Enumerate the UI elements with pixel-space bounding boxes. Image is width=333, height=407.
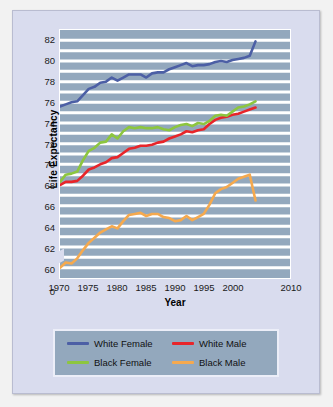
legend-swatch: [172, 342, 194, 345]
y-tick-label: 66: [44, 201, 55, 212]
y-tick-label: 62: [44, 242, 55, 253]
legend-item[interactable]: Black Male: [166, 357, 271, 368]
series-lines: [60, 30, 290, 278]
plot-wrapper: 0606264666870727476788082 19701975198019…: [59, 29, 291, 279]
legend-swatch: [172, 361, 194, 364]
x-tick-label: 1985: [135, 282, 156, 293]
y-tick-label: 76: [44, 96, 55, 107]
legend-label: White Male: [199, 338, 247, 349]
y-tick-label: 80: [44, 55, 55, 66]
series-line: [60, 108, 256, 186]
x-tick-label: 1980: [106, 282, 127, 293]
legend-swatch: [67, 361, 89, 364]
legend-label: Black Male: [199, 357, 245, 368]
y-tick-label: 60: [44, 263, 55, 274]
x-tick-label: 1990: [164, 282, 185, 293]
legend-item[interactable]: White Female: [61, 338, 166, 349]
y-tick-label: 78: [44, 76, 55, 87]
chart-legend: White FemaleWhite MaleBlack FemaleBlack …: [53, 329, 279, 377]
x-tick-label: 2010: [280, 282, 301, 293]
y-tick-label: 64: [44, 221, 55, 232]
y-axis-title: Life Expectancy: [48, 109, 59, 188]
x-tick-label: 1975: [77, 282, 98, 293]
legend-item[interactable]: Black Female: [61, 357, 166, 368]
x-tick-label: 1995: [193, 282, 214, 293]
legend-label: White Female: [94, 338, 153, 349]
plot-area: [59, 29, 291, 279]
series-line: [60, 175, 256, 268]
x-tick-label: 1970: [48, 282, 69, 293]
chart-figure: 0606264666870727476788082 19701975198019…: [12, 10, 320, 394]
legend-swatch: [67, 342, 89, 345]
legend-label: Black Female: [94, 357, 152, 368]
x-tick-label: 2000: [222, 282, 243, 293]
x-axis-title: Year: [164, 297, 185, 308]
series-line: [60, 41, 256, 106]
legend-item[interactable]: White Male: [166, 338, 271, 349]
y-tick-label: 82: [44, 34, 55, 45]
